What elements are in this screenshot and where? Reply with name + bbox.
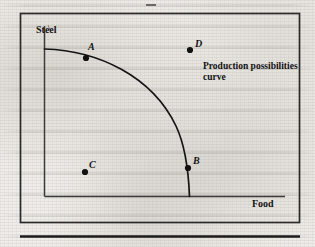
point-label-a: A <box>88 41 95 52</box>
point-label-b: B <box>193 155 200 166</box>
data-point-d <box>187 47 193 53</box>
y-axis-label: Steel <box>36 24 57 35</box>
figure-page: Steel Food Production possibilities curv… <box>0 0 315 247</box>
point-label-c: C <box>89 159 96 170</box>
data-point-c <box>82 169 88 175</box>
production-possibilities-curve <box>45 49 190 197</box>
data-point-b <box>185 165 191 171</box>
production-possibilities-figure <box>0 0 315 247</box>
point-label-d: D <box>195 38 202 49</box>
figure-frame <box>21 14 300 223</box>
x-axis-label: Food <box>252 198 274 209</box>
curve-caption: Production possibilities curve <box>203 61 298 82</box>
data-point-a <box>83 55 89 61</box>
